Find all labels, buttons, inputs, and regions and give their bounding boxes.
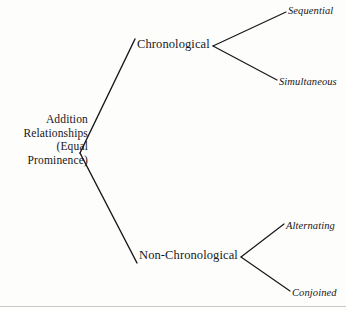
leaf-node-conjoined: Conjoined — [292, 286, 337, 300]
branch-node-non-chronological: Non-Chronological — [139, 249, 238, 263]
edge-root-to-non-chronological — [80, 153, 137, 263]
edge-chronological-to-sequential — [213, 12, 286, 46]
branch-node-chronological: Chronological — [137, 38, 210, 52]
page-bottom-rule — [0, 306, 346, 307]
edge-root-to-chronological — [80, 39, 135, 153]
edge-non-chronological-to-conjoined — [241, 257, 290, 291]
root-line-2: Relationships — [23, 127, 88, 141]
root-line-3: (Equal — [23, 140, 88, 154]
edge-non-chronological-to-alternating — [241, 224, 284, 257]
edge-chronological-to-simultaneous — [213, 46, 277, 80]
leaf-node-simultaneous: Simultaneous — [279, 75, 337, 89]
root-line-1: Addition — [23, 113, 88, 127]
leaf-node-alternating: Alternating — [286, 219, 335, 233]
leaf-node-sequential: Sequential — [288, 4, 333, 18]
root-line-4: Prominence) — [23, 154, 88, 168]
tree-diagram-figure: Addition Relationships (Equal Prominence… — [0, 0, 346, 311]
root-node-addition-relationships: Addition Relationships (Equal Prominence… — [23, 113, 88, 167]
